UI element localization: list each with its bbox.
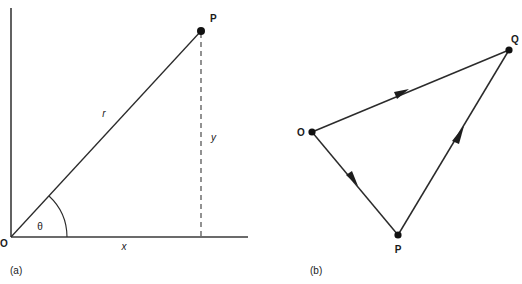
vertex-o-label: O <box>297 127 305 138</box>
vector-line-op <box>312 132 398 235</box>
vertex-q-marker <box>505 46 512 53</box>
arrowhead-op <box>346 171 358 186</box>
vertex-p-label: P <box>395 244 402 255</box>
radius-line-op <box>11 31 201 237</box>
panel-a: O P r y x θ (a) <box>0 0 261 284</box>
origin-label-a: O <box>0 238 8 249</box>
y-component-label: y <box>210 132 217 143</box>
caption-a: (a) <box>10 265 22 276</box>
caption-b: (b) <box>310 265 322 276</box>
vertex-p-marker <box>394 231 401 238</box>
arrowhead-pq <box>452 126 464 144</box>
radius-label: r <box>102 108 106 119</box>
figure-container: O P r y x θ (a) <box>0 0 522 284</box>
panel-b-drawing: O P Q (b) <box>261 0 522 284</box>
vertex-q-label: Q <box>511 34 519 45</box>
vector-line-oq <box>312 50 509 132</box>
panel-b: O P Q (b) <box>261 0 522 284</box>
x-component-label: x <box>121 241 128 252</box>
vector-line-pq <box>398 50 509 235</box>
angle-arc <box>49 196 67 237</box>
point-p-marker <box>197 27 205 35</box>
angle-theta-label: θ <box>37 221 43 232</box>
point-p-label-a: P <box>210 13 217 24</box>
panel-a-drawing: O P r y x θ (a) <box>0 0 261 284</box>
vertex-o-marker <box>308 128 315 135</box>
